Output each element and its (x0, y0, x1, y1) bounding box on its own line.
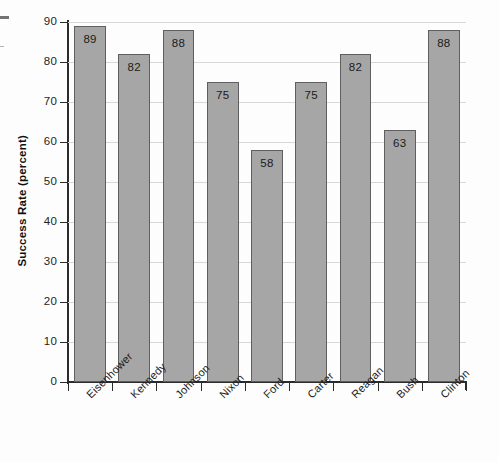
y-tick-label-text: 0 (29, 375, 57, 387)
y-tick-0 (60, 382, 67, 383)
y-tick-label-text: 70 (29, 95, 57, 107)
y-tick-label-0: 0 (25, 375, 57, 388)
bar-bush: 63 (384, 130, 416, 382)
y-tick-30 (60, 262, 67, 263)
y-tick-label-text: 80 (29, 55, 57, 67)
bar-value-label: 88 (164, 37, 194, 49)
y-tick-60 (60, 142, 67, 143)
y-tick-label-text: 20 (29, 295, 57, 307)
y-tick-label-70: 70 (25, 95, 57, 108)
y-tick-label-90: 90 (25, 15, 57, 28)
bar-eisenhower: 89 (74, 26, 106, 382)
x-tick-0 (68, 383, 69, 391)
x-tick-6 (333, 383, 334, 391)
y-tick-70 (60, 102, 67, 103)
bar-carter: 75 (295, 82, 327, 382)
bar-johnson: 88 (163, 30, 195, 382)
bar-value-label: 75 (296, 89, 326, 101)
bar-ford: 58 (251, 150, 283, 382)
y-tick-label-80: 80 (25, 55, 57, 68)
y-tick-label-text: 60 (29, 135, 57, 147)
bar-value-label: 75 (208, 89, 238, 101)
x-tick-1 (112, 383, 113, 391)
x-tick-4 (245, 383, 246, 391)
x-tick-3 (201, 383, 202, 391)
x-tick-2 (156, 383, 157, 391)
bar-value-label: 58 (252, 157, 282, 169)
bar-kennedy: 82 (118, 54, 150, 382)
y-tick-label-text: 90 (29, 15, 57, 27)
y-tick-label-text: 10 (29, 335, 57, 347)
bar-value-label: 82 (341, 61, 371, 73)
bar-value-label: 82 (119, 61, 149, 73)
bar-chart: Success Rate (percent) 01020304050607080… (0, 0, 499, 463)
y-tick-label-40: 40 (25, 215, 57, 228)
y-tick-label-20: 20 (25, 295, 57, 308)
y-tick-label-30: 30 (25, 255, 57, 268)
bar-value-label: 88 (429, 37, 459, 49)
x-tick-7 (378, 383, 379, 391)
x-tick-end (466, 383, 467, 391)
y-tick-80 (60, 62, 67, 63)
y-tick-label-text: 30 (29, 255, 57, 267)
bars-container: 898288755875826388 (68, 22, 466, 382)
y-tick-90 (60, 22, 67, 23)
y-axis-title: Success Rate (percent) (16, 135, 28, 267)
bar-nixon: 75 (207, 82, 239, 382)
y-tick-20 (60, 302, 67, 303)
y-tick-label-text: 40 (29, 215, 57, 227)
y-tick-10 (60, 342, 67, 343)
bar-clinton: 88 (428, 30, 460, 382)
bar-value-label: 89 (75, 33, 105, 45)
bar-reagan: 82 (340, 54, 372, 382)
y-tick-label-50: 50 (25, 175, 57, 188)
bar-value-label: 63 (385, 137, 415, 149)
x-tick-5 (289, 383, 290, 391)
y-tick-40 (60, 222, 67, 223)
y-tick-50 (60, 182, 67, 183)
y-tick-label-10: 10 (25, 335, 57, 348)
x-tick-8 (422, 383, 423, 391)
y-tick-label-60: 60 (25, 135, 57, 148)
y-tick-label-text: 50 (29, 175, 57, 187)
